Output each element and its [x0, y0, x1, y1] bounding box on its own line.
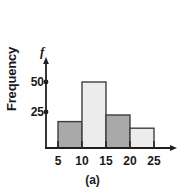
- histogram-figure: Frequency f 50 25 5 10 15 20 25: [0, 0, 185, 195]
- histogram-bars: [58, 82, 154, 148]
- y-axis: [43, 57, 49, 148]
- y-tick-mark-25: [44, 110, 49, 115]
- bar-5-10: [58, 122, 82, 148]
- bar-20-25: [130, 128, 154, 148]
- histogram-plot: [0, 0, 185, 195]
- y-tick-mark-50: [44, 80, 49, 85]
- bar-15-20: [106, 115, 130, 148]
- figure-caption: (a): [0, 173, 185, 187]
- bar-10-15: [82, 82, 106, 148]
